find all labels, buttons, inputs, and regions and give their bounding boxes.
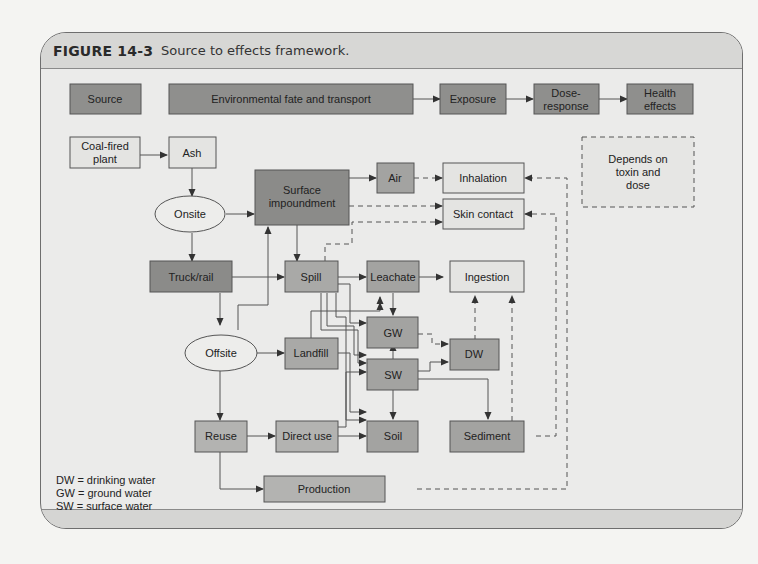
inhalation-label: Inhalation xyxy=(459,172,507,184)
reuse-label: Reuse xyxy=(205,430,237,442)
node-landfill[interactable]: Landfill xyxy=(285,338,338,369)
dose-response-line-1: Dose- xyxy=(551,87,581,99)
soil-label: Soil xyxy=(384,430,402,442)
node-inhalation[interactable]: Inhalation xyxy=(443,163,524,193)
health-line-2: effects xyxy=(644,100,677,112)
production-label: Production xyxy=(298,483,351,495)
node-gw[interactable]: GW xyxy=(367,317,418,348)
node-dw[interactable]: DW xyxy=(450,339,499,370)
sw-label: SW xyxy=(384,369,402,381)
legend-gw: GW = ground water xyxy=(56,487,155,500)
coal-line-2: plant xyxy=(93,153,117,165)
truck-rail-label: Truck/rail xyxy=(169,271,214,283)
air-label: Air xyxy=(388,172,402,184)
node-sediment[interactable]: Sediment xyxy=(450,421,524,452)
ash-label: Ash xyxy=(183,147,202,159)
depends-line-2: toxin and xyxy=(616,166,661,178)
legend-dw: DW = drinking water xyxy=(56,474,155,487)
node-source[interactable]: Source xyxy=(70,84,141,114)
node-onsite[interactable]: Onsite xyxy=(155,196,225,232)
landfill-label: Landfill xyxy=(294,347,329,359)
surface-line-2: impoundment xyxy=(269,197,336,209)
node-production[interactable]: Production xyxy=(264,476,385,502)
node-offsite[interactable]: Offsite xyxy=(185,335,257,371)
depends-line-3: dose xyxy=(626,179,650,191)
dw-label: DW xyxy=(465,348,484,360)
depends-line-1: Depends on xyxy=(608,153,667,165)
node-reuse[interactable]: Reuse xyxy=(195,421,247,452)
node-ash[interactable]: Ash xyxy=(169,137,216,168)
node-skin-contact[interactable]: Skin contact xyxy=(443,199,524,229)
node-coal-fired-plant[interactable]: Coal-fired plant xyxy=(70,137,140,168)
spill-label: Spill xyxy=(301,271,322,283)
node-exposure[interactable]: Exposure xyxy=(440,84,506,114)
exposure-label: Exposure xyxy=(450,93,496,105)
direct-use-label: Direct use xyxy=(282,430,332,442)
source-label: Source xyxy=(88,93,123,105)
onsite-label: Onsite xyxy=(174,208,206,220)
fate-label: Environmental fate and transport xyxy=(211,93,371,105)
leachate-label: Leachate xyxy=(370,271,415,283)
legend-sw: SW = surface water xyxy=(56,500,155,513)
coal-line-1: Coal-fired xyxy=(81,140,129,152)
gw-label: GW xyxy=(384,327,404,339)
sediment-label: Sediment xyxy=(464,430,510,442)
node-direct-use[interactable]: Direct use xyxy=(276,421,338,452)
node-health-effects[interactable]: Health effects xyxy=(627,84,693,114)
node-ingestion[interactable]: Ingestion xyxy=(450,261,524,292)
surface-line-1: Surface xyxy=(283,184,321,196)
node-truck-rail[interactable]: Truck/rail xyxy=(150,261,232,292)
offsite-label: Offsite xyxy=(205,347,237,359)
node-surface-impoundment[interactable]: Surface impoundment xyxy=(255,170,349,225)
dose-response-line-2: response xyxy=(543,100,588,112)
node-dose-response[interactable]: Dose- response xyxy=(534,84,599,114)
node-soil[interactable]: Soil xyxy=(367,421,418,452)
ingestion-label: Ingestion xyxy=(465,271,510,283)
abbreviation-legend: DW = drinking water GW = ground water SW… xyxy=(56,474,155,513)
node-sw[interactable]: SW xyxy=(367,359,418,390)
node-air[interactable]: Air xyxy=(377,163,414,193)
node-spill[interactable]: Spill xyxy=(285,261,338,292)
skin-contact-label: Skin contact xyxy=(453,208,513,220)
node-leachate[interactable]: Leachate xyxy=(367,261,419,292)
node-environmental-fate[interactable]: Environmental fate and transport xyxy=(169,84,413,114)
health-line-1: Health xyxy=(644,87,676,99)
